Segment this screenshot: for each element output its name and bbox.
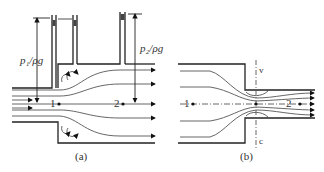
head1-label: p₁/ρg [20,54,43,66]
point2-label-b: 2 [286,97,292,109]
caption-b: (b) [240,150,253,162]
head2-label: p₂/ρg [140,42,163,54]
vena-bottom-label: c [259,136,263,146]
vena-top-label: v [259,65,264,75]
figure-a [12,12,155,143]
streamlines-a [12,70,155,136]
point2-label-a: 2 [114,97,120,109]
point1-label-b: 1 [184,97,190,109]
contraction-diagram [0,0,324,172]
figure-b [178,64,315,143]
streamlines-b [180,60,314,148]
point1-label-a: 1 [50,97,56,109]
caption-a: (a) [75,150,87,162]
